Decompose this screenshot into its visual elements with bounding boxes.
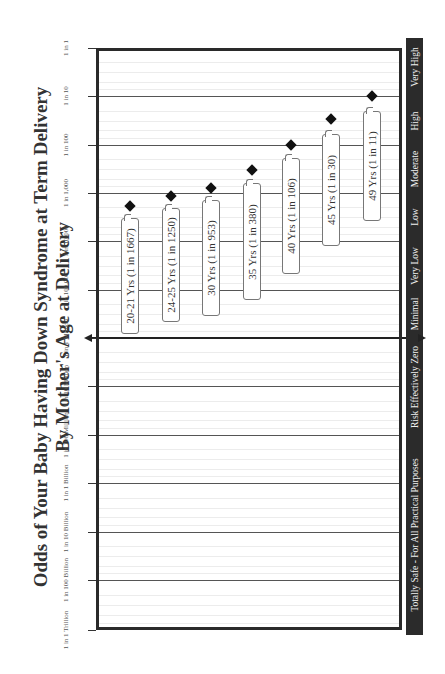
risk-category-label: High bbox=[410, 111, 420, 130]
risk-category-label: Totally Safe - For All Practical Purpose… bbox=[410, 458, 420, 611]
data-point-label: 30 Yrs (1 in 953) bbox=[205, 220, 217, 295]
risk-category-low: Low bbox=[406, 193, 423, 241]
y-tick-label: 1 in 1 Trillion bbox=[62, 606, 84, 654]
y-tick-label: 1 in 1 bbox=[62, 24, 84, 72]
y-tick-label: 1 in 10 Billion bbox=[62, 508, 84, 556]
callout-notch bbox=[325, 130, 332, 137]
data-point-callout: 20-21 Yrs (1 in 1667) bbox=[121, 218, 139, 334]
callout-notch bbox=[285, 154, 292, 161]
y-tick bbox=[88, 386, 96, 387]
y-tick bbox=[88, 96, 96, 97]
risk-category-label: Very Low bbox=[410, 247, 420, 285]
y-tick bbox=[88, 48, 96, 49]
data-point-callout: 35 Yrs (1 in 380) bbox=[243, 183, 261, 300]
y-tick-label: 1 in 100 Billion bbox=[62, 556, 84, 604]
chart-title-line1: Odds of Your Baby Having Down Syndrome a… bbox=[30, 0, 52, 674]
y-tick-label: 1 in 1 Billion bbox=[62, 459, 84, 507]
data-point-label: 40 Yrs (1 in 106) bbox=[285, 178, 297, 253]
data-point-label: 49 Yrs (1 in 11) bbox=[366, 131, 378, 200]
y-tick bbox=[88, 145, 96, 146]
data-point-label: 45 Yrs (1 in 30) bbox=[325, 155, 337, 225]
data-point-label: 20-21 Yrs (1 in 1667) bbox=[124, 228, 136, 324]
y-tick bbox=[88, 630, 96, 631]
y-tick-label: 1 in 1,000 bbox=[62, 169, 84, 217]
data-point-label: 35 Yrs (1 in 380) bbox=[246, 204, 258, 279]
data-point-callout: 30 Yrs (1 in 953) bbox=[202, 200, 220, 316]
plot-area bbox=[96, 48, 402, 630]
risk-category-label: Moderate bbox=[410, 151, 420, 187]
y-tick-label: 1 in 100,000 bbox=[62, 266, 84, 314]
y-tick-label: 1 in 100 Million bbox=[62, 411, 84, 459]
risk-category-very-high: Very High bbox=[406, 38, 423, 96]
risk-category-label: Minimal bbox=[410, 298, 420, 331]
risk-category-moderate: Moderate bbox=[406, 145, 423, 193]
zero-line-arrow-left-icon bbox=[84, 334, 92, 342]
risk-category-risk-effectively-zero: Risk Effectively Zero bbox=[406, 338, 423, 435]
y-tick-label: 1 in 10 Million bbox=[62, 362, 84, 410]
data-point-callout: 45 Yrs (1 in 30) bbox=[322, 134, 340, 246]
risk-category-label: Very High bbox=[410, 47, 420, 86]
callout-notch bbox=[366, 107, 373, 114]
y-tick-label: 1 in 100 bbox=[62, 121, 84, 169]
risk-category-very-low: Very Low bbox=[406, 241, 423, 290]
callout-notch bbox=[205, 196, 212, 203]
risk-category-minimal: Minimal bbox=[406, 290, 423, 338]
callout-notch bbox=[124, 214, 131, 221]
y-tick bbox=[88, 580, 96, 581]
data-point-label: 24-25 Yrs (1 in 1250) bbox=[165, 217, 177, 313]
y-tick-label: 1 in 1 Million bbox=[62, 314, 84, 362]
y-tick bbox=[88, 193, 96, 194]
risk-category-high: High bbox=[406, 96, 423, 145]
y-tick bbox=[88, 532, 96, 533]
risk-category-totally-safe-for-all-practical-purposes: Totally Safe - For All Practical Purpose… bbox=[406, 435, 423, 635]
risk-category-label: Risk Effectively Zero bbox=[410, 345, 420, 427]
risk-category-label: Low bbox=[410, 208, 420, 225]
data-point-callout: 40 Yrs (1 in 106) bbox=[282, 158, 300, 274]
y-tick bbox=[88, 290, 96, 291]
y-tick bbox=[88, 241, 96, 242]
callout-notch bbox=[165, 204, 172, 211]
data-point-callout: 24-25 Yrs (1 in 1250) bbox=[162, 208, 180, 322]
y-tick bbox=[88, 483, 96, 484]
callout-notch bbox=[246, 179, 253, 186]
y-tick bbox=[88, 435, 96, 436]
data-point-callout: 49 Yrs (1 in 11) bbox=[363, 111, 381, 221]
y-tick-label: 1 in 10,000 bbox=[62, 217, 84, 265]
y-tick-label: 1 in 10 bbox=[62, 72, 84, 120]
zero-line-arrow-right-icon bbox=[418, 334, 426, 342]
